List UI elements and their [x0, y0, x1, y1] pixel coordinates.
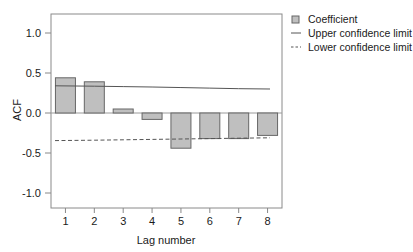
legend-label: Lower confidence limit — [308, 41, 412, 53]
acf-bar — [229, 113, 249, 139]
chart-legend: CoefficientUpper confidence limitLower c… — [291, 13, 412, 53]
y-tick-label: -0.5 — [22, 147, 41, 159]
y-tick-label: 0.5 — [26, 67, 41, 79]
legend-swatch-coefficient — [292, 16, 299, 23]
y-tick-label: 1.0 — [26, 27, 41, 39]
x-tick-label: 7 — [236, 215, 242, 227]
legend-label: Upper confidence limit — [308, 27, 412, 39]
x-tick-label: 3 — [120, 215, 126, 227]
acf-bar — [142, 113, 162, 119]
acf-bar — [200, 113, 220, 139]
x-tick-label: 8 — [265, 215, 271, 227]
acf-chart-svg: 1.00.50.0-0.5-1.0 12345678 ACF Lag numbe… — [0, 0, 413, 252]
acf-bar — [113, 109, 133, 113]
x-tick-label: 1 — [62, 215, 68, 227]
x-tick-label: 4 — [149, 215, 155, 227]
y-tick-label: -1.0 — [22, 187, 41, 199]
acf-bar — [258, 113, 278, 135]
x-tick-label: 5 — [178, 215, 184, 227]
y-axis-ticks: 1.00.50.0-0.5-1.0 — [22, 27, 51, 199]
acf-bar — [55, 78, 75, 113]
x-tick-label: 6 — [207, 215, 213, 227]
acf-chart-figure: 1.00.50.0-0.5-1.0 12345678 ACF Lag numbe… — [0, 0, 413, 252]
y-axis-title: ACF — [11, 99, 23, 121]
x-tick-label: 2 — [91, 215, 97, 227]
acf-bar — [171, 113, 191, 148]
legend-label: Coefficient — [308, 13, 358, 25]
x-axis-title: Lag number — [137, 234, 196, 246]
y-tick-label: 0.0 — [26, 107, 41, 119]
x-axis-ticks: 12345678 — [62, 208, 270, 227]
